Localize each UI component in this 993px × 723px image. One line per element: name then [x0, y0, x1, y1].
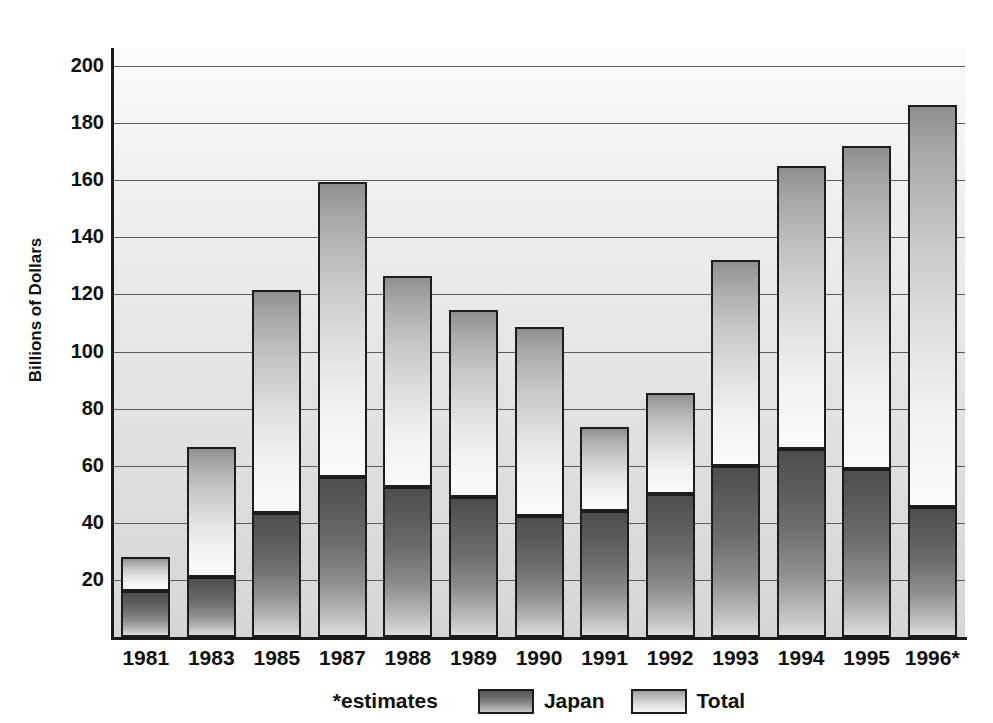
legend-estimates-note: *estimates	[333, 689, 438, 713]
bar-segment-total[interactable]	[252, 290, 301, 513]
gridline-160	[113, 180, 965, 181]
gridline-180	[113, 123, 965, 124]
x-tick-label-1995: 1995	[834, 645, 900, 670]
bar-segment-japan[interactable]	[646, 494, 695, 637]
bar-segment-total[interactable]	[842, 146, 891, 469]
legend-label-japan: Japan	[544, 689, 605, 713]
bar-segment-japan[interactable]	[121, 591, 170, 637]
legend-swatch-total-icon	[631, 689, 687, 714]
x-tick-label-1992: 1992	[637, 645, 703, 670]
bar-segment-japan[interactable]	[449, 497, 498, 637]
bar-segment-japan[interactable]	[318, 477, 367, 637]
bar-segment-total[interactable]	[515, 327, 564, 515]
y-tick-label-120: 120	[34, 283, 104, 303]
bar-chart: Billions of Dollars 20018016014012010080…	[0, 0, 993, 723]
x-tick-label-1991: 1991	[572, 645, 638, 670]
bar-group-1996-est[interactable]	[908, 105, 957, 637]
bar-group-1994[interactable]	[777, 166, 826, 637]
bar-segment-total[interactable]	[580, 427, 629, 511]
x-tick-label-1989: 1989	[441, 645, 507, 670]
y-tick-label-80: 80	[34, 398, 104, 418]
bar-segment-total[interactable]	[777, 166, 826, 449]
bar-segment-total[interactable]	[121, 557, 170, 591]
bar-group-1995[interactable]	[842, 146, 891, 637]
y-tick-label-100: 100	[34, 341, 104, 361]
y-axis-tick-labels: 20018016014012010080604020	[26, 48, 104, 637]
gridline-120	[113, 294, 965, 295]
y-tick-label-200: 200	[34, 55, 104, 75]
bar-segment-total[interactable]	[711, 260, 760, 466]
bar-segment-japan[interactable]	[252, 513, 301, 637]
plot-area	[113, 48, 965, 637]
y-tick-label-180: 180	[34, 112, 104, 132]
bar-segment-total[interactable]	[646, 393, 695, 494]
chart-legend: *estimates Japan Total	[113, 684, 965, 718]
x-axis-tick-labels: 1981198319851987198819891990199119921993…	[113, 645, 965, 679]
bar-group-1987[interactable]	[318, 182, 367, 637]
bar-group-1983[interactable]	[187, 447, 236, 637]
bar-segment-japan[interactable]	[842, 469, 891, 637]
x-tick-label-1981: 1981	[113, 645, 179, 670]
bar-segment-total[interactable]	[187, 447, 236, 577]
x-tick-label-1993: 1993	[703, 645, 769, 670]
bar-segment-total[interactable]	[449, 310, 498, 497]
x-tick-label-1988: 1988	[375, 645, 441, 670]
bar-group-1985[interactable]	[252, 290, 301, 637]
x-tick-label-1985: 1985	[244, 645, 310, 670]
bar-segment-total[interactable]	[908, 105, 957, 508]
x-tick-label-1994: 1994	[768, 645, 834, 670]
bar-group-1993[interactable]	[711, 260, 760, 637]
bar-segment-japan[interactable]	[383, 487, 432, 637]
gridline-200	[113, 66, 965, 67]
y-tick-label-160: 160	[34, 169, 104, 189]
bar-group-1990[interactable]	[515, 327, 564, 637]
y-tick-label-20: 20	[34, 569, 104, 589]
gridline-140	[113, 237, 965, 238]
y-tick-label-40: 40	[34, 512, 104, 532]
bar-segment-japan[interactable]	[711, 466, 760, 637]
x-axis-line	[111, 637, 967, 640]
legend-item-total[interactable]: Total	[631, 689, 746, 714]
legend-item-japan[interactable]: Japan	[478, 689, 605, 714]
x-tick-label-1990: 1990	[506, 645, 572, 670]
bar-group-1989[interactable]	[449, 310, 498, 637]
bar-segment-total[interactable]	[318, 182, 367, 477]
bar-group-1991[interactable]	[580, 427, 629, 637]
bar-segment-japan[interactable]	[908, 507, 957, 637]
y-tick-label-140: 140	[34, 226, 104, 246]
bar-segment-japan[interactable]	[187, 577, 236, 637]
bar-group-1988[interactable]	[383, 276, 432, 637]
bar-segment-japan[interactable]	[515, 516, 564, 637]
legend-label-total: Total	[697, 689, 746, 713]
x-tick-label-1983: 1983	[179, 645, 245, 670]
x-tick-label-1987: 1987	[310, 645, 376, 670]
x-tick-label-1996-est: 1996*	[899, 645, 965, 670]
bar-group-1981[interactable]	[121, 557, 170, 637]
y-tick-label-60: 60	[34, 455, 104, 475]
bar-segment-total[interactable]	[383, 276, 432, 487]
legend-swatch-japan-icon	[478, 689, 534, 714]
bar-segment-japan[interactable]	[777, 449, 826, 637]
y-axis-line	[111, 48, 114, 639]
bar-group-1992[interactable]	[646, 393, 695, 637]
bar-segment-japan[interactable]	[580, 511, 629, 637]
